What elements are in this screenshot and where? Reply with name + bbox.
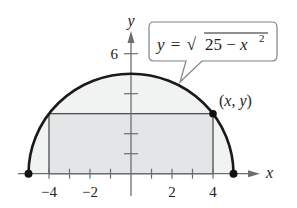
x-tick-label-4: 4 xyxy=(209,184,217,200)
y-axis-label: y xyxy=(125,12,135,30)
endpoint-right xyxy=(230,170,238,178)
x-tick-label-neg4: −4 xyxy=(41,184,57,200)
callout-exponent: 2 xyxy=(259,32,265,44)
x-axis-arrow-icon xyxy=(248,170,260,177)
point-xy xyxy=(209,110,217,118)
point-label: (x, y) xyxy=(219,92,252,110)
y-axis-arrow-icon xyxy=(128,31,135,43)
endpoint-left xyxy=(25,170,33,178)
y-tick-label-6: 6 xyxy=(111,46,119,62)
semicircle-rectangle-figure: −4 −2 2 4 6 y x (x, y) y = √ 25 − x 2 xyxy=(0,0,297,208)
x-tick-label-neg2: −2 xyxy=(82,184,98,200)
equation-callout: y = √ 25 − x 2 xyxy=(149,22,277,82)
callout-equation: y = √ xyxy=(155,35,197,54)
callout-radicand: 25 − x xyxy=(205,35,248,54)
x-axis-label: x xyxy=(265,164,273,181)
x-tick-label-2: 2 xyxy=(168,184,176,200)
